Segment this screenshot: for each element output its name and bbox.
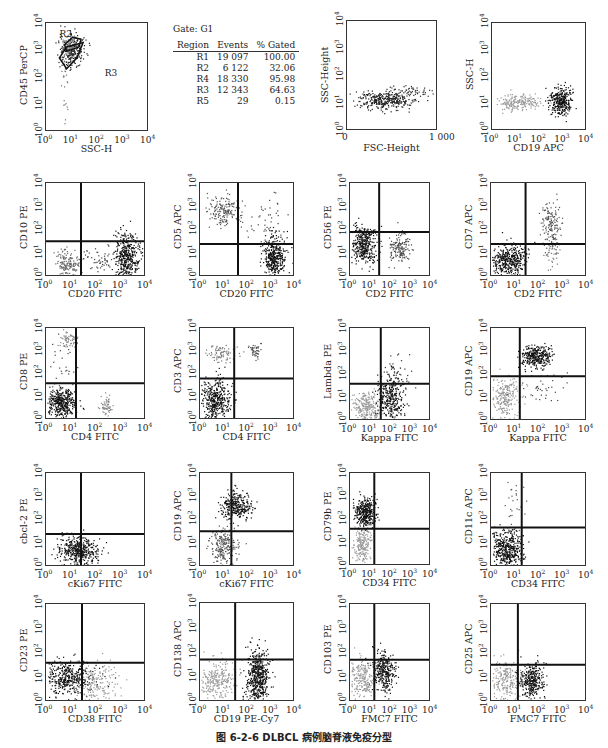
cell: R3 — [173, 85, 213, 96]
y-tick-label: 100 — [477, 411, 489, 426]
header-events: Events — [213, 40, 253, 52]
y-axis-label: CD25 APC — [463, 624, 474, 675]
y-tick-label: 102 — [186, 220, 198, 235]
y-tick-label: 100 — [336, 692, 348, 707]
y-tick-label: 102 — [186, 510, 198, 525]
x-axis-label: CD2 FITC — [490, 288, 586, 299]
y-tick-label: 101 — [186, 668, 198, 683]
y-axis-label: cbcl-2 PE — [18, 499, 29, 544]
y-tick-label: 100 — [478, 121, 490, 136]
table-row: R119 097100.00 — [173, 52, 299, 64]
y-axis-label: CD19 APC — [463, 345, 474, 396]
plot-area — [45, 327, 145, 419]
x-axis-label: CD19 PE-Cy7 — [199, 713, 294, 724]
x-axis-label: CD2 FITC — [349, 288, 430, 299]
y-tick-label: 101 — [336, 244, 348, 259]
y-tick-label: 103 — [477, 197, 489, 212]
x-axis-label: FMC7 FITC — [490, 713, 586, 724]
y-tick-label: 104 — [336, 594, 348, 609]
gate-label-r3: R3 — [105, 68, 118, 78]
x-axis-label: CD34 FITC — [349, 577, 430, 588]
x-axis-label: CD19 APC — [491, 142, 586, 153]
y-tick-label: 104 — [186, 463, 198, 478]
x-axis-label: CD20 FITC — [199, 288, 294, 299]
y-tick-label: 103 — [32, 487, 44, 502]
y-tick-label: 104 — [333, 11, 345, 26]
y-tick-label: 103 — [336, 619, 348, 634]
plot-area — [45, 603, 145, 701]
y-tick-label: 104 — [477, 463, 489, 478]
y-tick-label: 100 — [186, 410, 198, 425]
y-axis-label: SSC-H — [464, 58, 475, 90]
y-tick-label: 103 — [186, 341, 198, 356]
cell: 0.15 — [252, 96, 299, 107]
y-tick-label: 100 — [333, 121, 345, 136]
header-region: Region — [173, 40, 213, 52]
region-table: Region Events % Gated R119 097100.00 R26… — [173, 40, 299, 107]
y-tick-label: 101 — [477, 388, 489, 403]
y-tick-label: 102 — [477, 510, 489, 525]
y-tick-label: 102 — [32, 68, 44, 83]
x-axis-label: SSC-H — [45, 143, 148, 154]
y-tick-label: 103 — [32, 619, 44, 634]
y-axis-label: CD19 APC — [172, 491, 183, 542]
y-tick-label: 101 — [32, 244, 44, 259]
y-tick-label: 101 — [32, 534, 44, 549]
x-axis-label: FSC-Height — [346, 142, 437, 153]
y-tick-label: 103 — [478, 40, 490, 55]
y-axis-label: Lambda PE — [322, 344, 333, 399]
figure-caption: 图 6-2-6 DLBCL 病例脑脊液免疫分型 — [0, 729, 608, 744]
y-tick-label: 100 — [32, 267, 44, 282]
table-row: R5290.15 — [173, 96, 299, 107]
y-tick-label: 103 — [186, 487, 198, 502]
y-tick-label: 104 — [478, 13, 490, 28]
plot-area — [349, 472, 430, 565]
y-tick-label: 104 — [336, 463, 348, 478]
x-axis-label: CD4 FITC — [45, 431, 145, 442]
y-axis-label: CD3 APC — [172, 348, 183, 392]
y-tick-label: 104 — [186, 173, 198, 188]
y-tick-label: 103 — [32, 341, 44, 356]
x-axis-label: FMC7 FITC — [349, 713, 430, 724]
cell: 100.00 — [252, 52, 299, 64]
y-tick-label: 104 — [477, 173, 489, 188]
y-tick-label: 104 — [32, 318, 44, 333]
plot-area — [490, 327, 586, 420]
cell: R2 — [173, 63, 213, 74]
y-tick-label: 100 — [336, 267, 348, 282]
y-tick-label: 102 — [32, 510, 44, 525]
cell: 64.63 — [252, 85, 299, 96]
y-tick-label: 100 — [336, 556, 348, 571]
y-axis-label: CD45 PerCP — [18, 45, 29, 105]
plot-area — [45, 182, 145, 276]
y-tick-label: 102 — [333, 66, 345, 81]
plot-area — [490, 603, 586, 701]
y-tick-label: 100 — [186, 692, 198, 707]
y-axis-label: CD79b PE — [322, 491, 333, 540]
plot-area — [199, 472, 294, 566]
y-axis-label: CD8 PE — [18, 353, 29, 390]
plot-area — [199, 182, 294, 276]
cell: 19 097 — [213, 52, 253, 64]
plot-area — [199, 327, 294, 419]
y-tick-label: 103 — [477, 619, 489, 634]
x-axis-label: CD4 FITC — [199, 431, 294, 442]
y-axis-label: CD11c APC — [463, 488, 474, 544]
y-tick-label: 100 — [32, 692, 44, 707]
y-axis-label: CD5 APC — [172, 204, 183, 248]
gate-title: Gate: G1 — [173, 24, 299, 34]
cell: R5 — [173, 96, 213, 107]
y-tick-label: 101 — [186, 534, 198, 549]
y-tick-label: 104 — [336, 173, 348, 188]
y-tick-label: 103 — [336, 197, 348, 212]
y-tick-label: 104 — [186, 318, 198, 333]
y-tick-label: 101 — [478, 94, 490, 109]
y-tick-label: 102 — [336, 220, 348, 235]
plot-area — [490, 182, 586, 276]
x-axis-label: CD34 FITC — [490, 578, 586, 589]
plot-area — [45, 472, 145, 566]
table-row: R26 12232.06 — [173, 63, 299, 74]
plot-area — [346, 20, 437, 130]
y-tick-label: 100 — [477, 692, 489, 707]
gate-label-r2: R2 — [59, 29, 72, 39]
